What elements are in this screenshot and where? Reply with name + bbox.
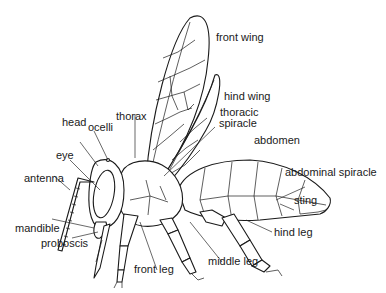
label-hind-wing: hind wing (224, 90, 270, 102)
label-front-leg: front leg (134, 263, 174, 275)
label-ocelli: ocelli (88, 121, 113, 133)
head-shape (89, 159, 124, 229)
label-middle-leg: middle leg (208, 255, 258, 267)
mouthparts-shape (94, 222, 110, 278)
label-abdomen: abdomen (254, 134, 300, 146)
label-proboscis: proboscis (41, 237, 88, 249)
label-hind-leg: hind leg (274, 226, 313, 238)
label-mandible: mandible (15, 222, 60, 234)
label-thoracic-spiracle-line2: spiracle (219, 117, 257, 129)
front-leg-shape (114, 214, 138, 288)
label-thorax: thorax (116, 110, 147, 122)
insect-drawing (0, 0, 386, 293)
label-abdominal-spiracle: abdominal spiracle (285, 166, 377, 178)
label-head: head (62, 116, 86, 128)
label-sting: sting (294, 194, 317, 206)
label-eye: eye (56, 149, 74, 161)
label-antenna: antenna (24, 172, 64, 184)
insect-anatomy-diagram: front wing hind wing thoracic spiracle t… (0, 0, 386, 293)
label-front-wing: front wing (216, 31, 264, 43)
